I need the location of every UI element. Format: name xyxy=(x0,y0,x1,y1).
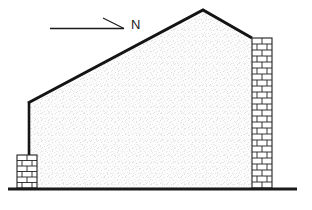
right-brick-pier xyxy=(252,38,272,188)
left-brick-pier xyxy=(17,155,37,188)
building-wall-group xyxy=(28,10,252,188)
elevation-drawing-svg: N xyxy=(0,0,312,210)
north-direction-label: N xyxy=(131,17,140,32)
north-arrow xyxy=(50,18,124,29)
elevation-drawing-canvas: N xyxy=(0,0,312,210)
building-wall-stipple-overlay xyxy=(28,10,252,188)
north-arrow-barb xyxy=(103,18,124,29)
